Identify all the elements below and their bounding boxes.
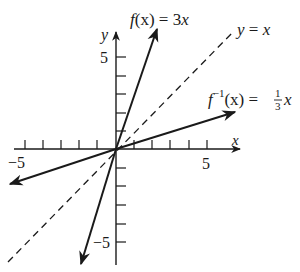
- f-inverse-line-lower: [10, 149, 116, 184]
- f-inverse-label: f−1(x) = 1 3 x: [208, 87, 292, 112]
- x-tick-label-5: 5: [202, 155, 210, 172]
- svg-text:f−1(x) =: f−1(x) =: [208, 87, 258, 109]
- f-inverse-line: [116, 112, 235, 149]
- x-axis: x −5 5: [8, 132, 240, 172]
- y-axis: y 5 −5: [93, 26, 126, 265]
- svg-text:3: 3: [275, 100, 281, 112]
- svg-text:x: x: [283, 90, 292, 109]
- f-label: f(x) = 3x: [130, 10, 189, 29]
- y-axis-label: y: [99, 26, 109, 44]
- svg-text:1: 1: [275, 87, 281, 99]
- x-tick-label-neg5: −5: [8, 154, 25, 171]
- function-inverse-graph: x −5 5 y 5 −5 f(x) = 3x y = x: [0, 0, 300, 272]
- x-axis-label: x: [231, 132, 239, 148]
- identity-label: y = x: [235, 20, 271, 39]
- y-tick-label-5: 5: [100, 49, 108, 66]
- y-tick-label-neg5: −5: [93, 234, 110, 251]
